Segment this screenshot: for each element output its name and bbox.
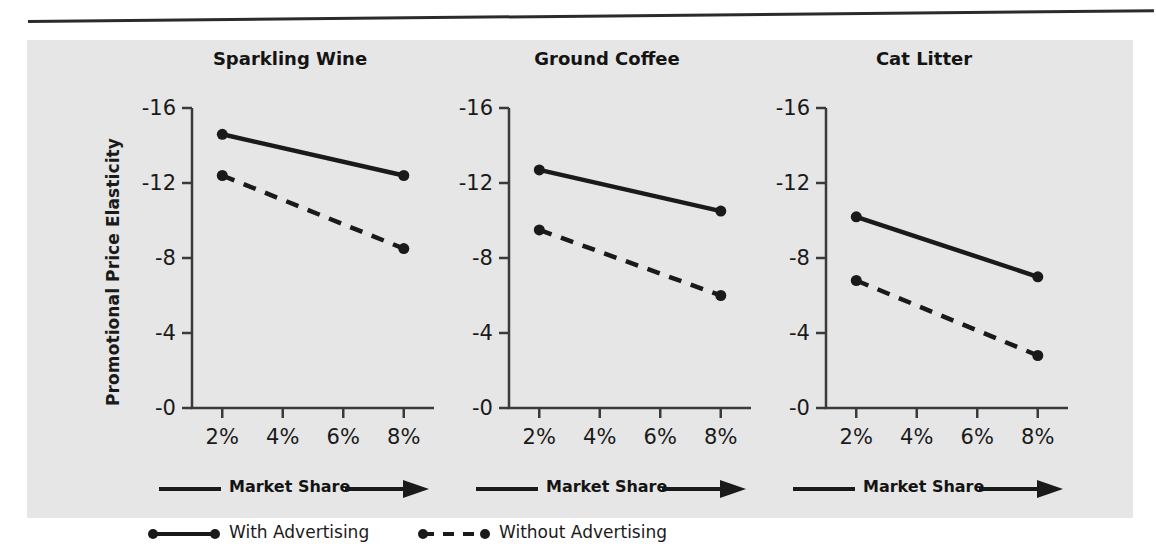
x-tick-label: 6% — [961, 425, 994, 449]
x-tick-label: 2% — [840, 425, 873, 449]
series-line — [856, 217, 1038, 277]
x-tick-label: 6% — [644, 425, 677, 449]
plot-area-1: -16-12-8-4-02%4%6%8% — [439, 40, 779, 460]
market-share-caption-0: Market Share — [157, 476, 437, 502]
series-line — [856, 281, 1038, 356]
panel-sparkling-wine: Sparkling Wine -16-12-8-4-02%4%6%8% — [122, 40, 462, 460]
data-point — [217, 170, 228, 181]
panels-container: Sparkling Wine -16-12-8-4-02%4%6%8% Grou… — [27, 40, 1133, 518]
series-line — [222, 134, 403, 175]
market-share-caption-2: Market Share — [791, 476, 1071, 502]
data-point — [398, 170, 409, 181]
market-share-label: Market Share — [546, 477, 667, 496]
figure-root: Promotional Price Elasticity Sparkling W… — [0, 0, 1156, 557]
y-tick-label: -8 — [155, 246, 176, 270]
series-line — [222, 176, 403, 249]
y-tick-label: -16 — [142, 96, 176, 120]
data-point — [715, 290, 726, 301]
x-tick-label: 8% — [387, 425, 420, 449]
data-point — [217, 129, 228, 140]
legend-label: With Advertising — [229, 522, 369, 542]
y-tick-label: -12 — [459, 171, 493, 195]
legend-label: Without Advertising — [499, 522, 667, 542]
data-point — [398, 243, 409, 254]
data-point — [715, 206, 726, 217]
y-tick-label: -8 — [789, 246, 810, 270]
y-tick-label: -0 — [472, 396, 493, 420]
y-tick-label: -0 — [155, 396, 176, 420]
plot-area-2: -16-12-8-4-02%4%6%8% — [756, 40, 1096, 460]
y-tick-label: -16 — [776, 96, 810, 120]
x-tick-label: 4% — [583, 425, 616, 449]
x-tick-label: 8% — [704, 425, 737, 449]
x-tick-label: 2% — [523, 425, 556, 449]
y-tick-label: -4 — [472, 321, 493, 345]
legend-solid-line-icon — [145, 520, 225, 548]
panel-ground-coffee: Ground Coffee -16-12-8-4-02%4%6%8% — [439, 40, 779, 460]
x-tick-label: 2% — [206, 425, 239, 449]
market-share-caption-1: Market Share — [474, 476, 754, 502]
market-share-label: Market Share — [863, 477, 984, 496]
series-line — [539, 230, 721, 296]
y-tick-label: -8 — [472, 246, 493, 270]
data-point — [534, 164, 545, 175]
y-tick-label: -12 — [776, 171, 810, 195]
market-share-label: Market Share — [229, 477, 350, 496]
data-point — [1032, 271, 1043, 282]
plot-area-0: -16-12-8-4-02%4%6%8% — [122, 40, 462, 460]
data-point — [851, 211, 862, 222]
legend-dashed-line-icon — [415, 520, 495, 548]
y-tick-label: -16 — [459, 96, 493, 120]
x-tick-label: 4% — [266, 425, 299, 449]
x-tick-label: 6% — [327, 425, 360, 449]
data-point — [851, 275, 862, 286]
y-tick-label: -4 — [789, 321, 810, 345]
legend-item-with-advertising: With Advertising — [145, 520, 225, 548]
data-point — [1032, 350, 1043, 361]
legend-item-without-advertising: Without Advertising — [415, 520, 495, 548]
series-line — [539, 170, 721, 211]
x-tick-label: 8% — [1021, 425, 1054, 449]
data-point — [534, 224, 545, 235]
y-tick-label: -0 — [789, 396, 810, 420]
y-tick-label: -12 — [142, 171, 176, 195]
panel-cat-litter: Cat Litter -16-12-8-4-02%4%6%8% — [756, 40, 1096, 460]
y-tick-label: -4 — [155, 321, 176, 345]
x-tick-label: 4% — [900, 425, 933, 449]
figure-gray-panel: Promotional Price Elasticity Sparkling W… — [27, 40, 1133, 518]
top-divider-rule — [28, 9, 1154, 23]
